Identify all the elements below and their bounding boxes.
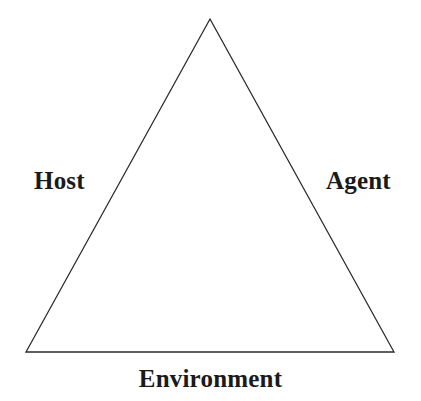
diagram-canvas: Host Agent Environment <box>0 0 421 401</box>
label-environment: Environment <box>0 366 421 391</box>
label-agent: Agent <box>326 168 391 193</box>
triangle-shape <box>0 0 421 401</box>
label-host: Host <box>34 168 85 193</box>
